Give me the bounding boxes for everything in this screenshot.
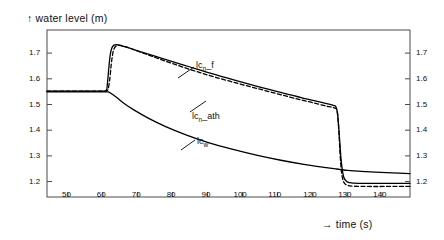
y-tick-left-1-2: 1.2: [29, 177, 40, 186]
label-tail: _f: [206, 60, 214, 70]
axes-frame: [47, 30, 410, 197]
x-tick-140: 140: [373, 190, 386, 199]
y-tick-left-1-4: 1.4: [29, 125, 40, 134]
lcw-label: lcw: [197, 136, 208, 148]
lcn-ath-label: lcn_ath: [192, 111, 220, 123]
x-tick-120: 120: [303, 190, 316, 199]
chart-figure: ↑ water level (m) → time (s) 50607080901…: [0, 0, 444, 240]
x-tick-80: 80: [167, 190, 176, 199]
y-tick-left-1-7: 1.7: [29, 48, 40, 57]
label-tail: _ath: [202, 111, 220, 121]
y-tick-left-1-3: 1.3: [29, 151, 40, 160]
y-tick-right-1-2: 1.2: [416, 177, 427, 186]
plot-area: [0, 0, 444, 240]
curve-lcn_ath: [47, 45, 410, 184]
x-tick-110: 110: [268, 190, 281, 199]
lcn-f-label: lcn_f: [196, 60, 214, 72]
y-tick-right-1-3: 1.3: [416, 151, 427, 160]
y-tick-left-1-5: 1.5: [29, 100, 40, 109]
x-tick-100: 100: [233, 190, 246, 199]
axis-ticks: [47, 53, 410, 197]
x-tick-130: 130: [338, 190, 351, 199]
x-tick-50: 50: [62, 190, 71, 199]
y-tick-right-1-6: 1.6: [416, 74, 427, 83]
curve-lcn_f: [47, 45, 410, 186]
x-tick-60: 60: [97, 190, 106, 199]
y-tick-left-1-6: 1.6: [29, 74, 40, 83]
data-curves: [47, 45, 410, 187]
y-tick-right-1-7: 1.7: [416, 48, 427, 57]
y-tick-right-1-4: 1.4: [416, 125, 427, 134]
label-subscript: w: [204, 141, 209, 148]
y-tick-right-1-5: 1.5: [416, 100, 427, 109]
curve-lcw: [47, 92, 410, 174]
x-tick-90: 90: [202, 190, 211, 199]
x-tick-70: 70: [132, 190, 141, 199]
